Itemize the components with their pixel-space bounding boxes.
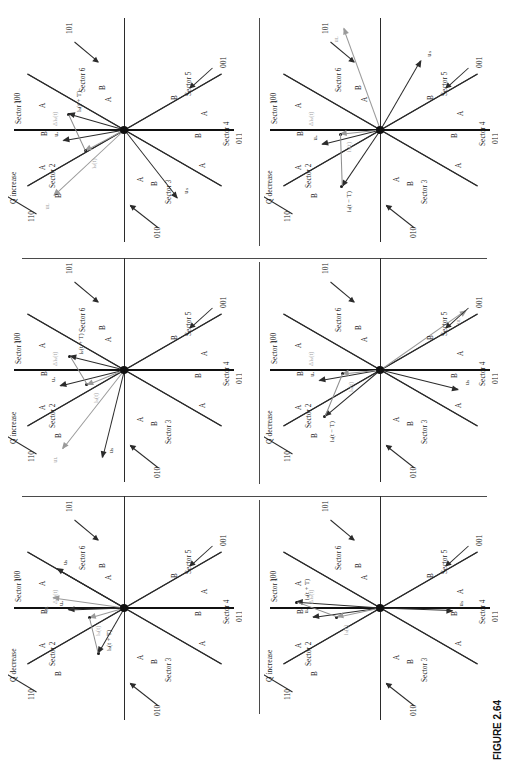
code-leader-line	[130, 684, 159, 707]
region-label-b: B	[428, 95, 435, 100]
sector-boundary-ray	[124, 18, 125, 130]
region-label-a: A	[456, 163, 463, 168]
ripple-connector	[325, 374, 343, 417]
region-label-a: A	[394, 177, 401, 182]
region-label-b: B	[196, 133, 203, 138]
vector-us	[380, 60, 421, 130]
vector-label-uL: uʟ	[52, 457, 58, 463]
leader-arrowhead	[348, 297, 356, 305]
sector-code-100: 100	[270, 93, 277, 104]
region-label-a: A	[40, 405, 47, 410]
region-label-b: B	[428, 573, 435, 578]
region-label-a: A	[296, 405, 303, 410]
region-label-b: B	[408, 421, 415, 426]
sector-label-6: Sector 6	[336, 67, 343, 92]
region-label-a: A	[138, 655, 145, 660]
region-label-a: A	[296, 103, 303, 108]
sector-boundary-ray	[124, 608, 125, 720]
code-leader-line	[130, 446, 159, 469]
region-label-b: B	[152, 659, 159, 664]
panel-rotated-canvas: uʟuₐiₛ(t)iₛ(t − T)uₛΔiₛ(t)Sector 1Sector…	[264, 14, 496, 246]
sector-code-100: 100	[14, 93, 21, 104]
sector-boundary-ray	[124, 258, 125, 370]
ripple-connector	[68, 114, 86, 151]
vector-label-ua: uₐ	[50, 377, 56, 382]
sector-boundary-ray	[380, 370, 381, 482]
code-leader-line	[386, 206, 415, 229]
vector-label-ua: uₐ	[53, 132, 59, 137]
code-leader-line	[74, 42, 99, 63]
sector-code-011: 011	[236, 133, 242, 144]
region-label-b: B	[408, 659, 415, 664]
leader-arrowhead	[92, 535, 100, 543]
sector-label-6: Sector 6	[80, 545, 87, 570]
hexagon-diagram: uʟuₐiₛ(t)iₛ(t − T)uₛΔiₛ(t)Sector 1Sector…	[264, 254, 496, 486]
sector-label-3: Sector 3	[422, 419, 429, 444]
hexagon-diagram: uʟuₐiₛ(t)iₛ(t + T)uₛΔiₛ(t)Sector 1Sector…	[8, 492, 240, 724]
vector-label-us: uₛ	[108, 448, 114, 453]
region-label-a: A	[138, 177, 145, 182]
sector-code-001: 001	[476, 535, 483, 546]
region-label-b: B	[312, 433, 319, 438]
vector-uL	[343, 28, 381, 130]
panel-rotated-canvas: uʟuₐiₛ(t)iₛ(t + T)uₛΔiₛ(t)Sector 1Sector…	[8, 254, 240, 486]
sector-code-011: 011	[236, 373, 242, 384]
region-label-a: A	[106, 337, 113, 342]
panel-title-line2: Q increase	[10, 412, 17, 444]
sector-boundary-ray	[124, 370, 125, 482]
region-label-b: B	[408, 181, 415, 186]
sector-code-101: 101	[66, 23, 73, 34]
origin-hub	[120, 604, 128, 612]
region-label-b: B	[152, 181, 159, 186]
sector-boundary-ray	[380, 552, 477, 609]
sector-boundary-ray	[124, 552, 221, 609]
panel-title-line2: Q increase	[10, 172, 17, 204]
sector-code-001: 001	[476, 57, 483, 68]
hexagon-diagram: uʟuₐiₛ(t)iₛ(t + T)uₛΔiₛ(t)Sector 1Sector…	[8, 254, 240, 486]
panel-bottom-right: uₐiₛ(t)iₛ(t + T)uₛΔiₛ(t)Sector 1Sector 2…	[264, 492, 498, 726]
sector-code-101: 101	[66, 501, 73, 512]
panel-middle-right: uʟuₐiₛ(t)iₛ(t − T)uₛΔiₛ(t)Sector 1Sector…	[264, 254, 498, 488]
vector-label-delta-is: Δiₛ(t)	[308, 351, 314, 366]
region-label-b: B	[56, 433, 63, 438]
region-label-b: B	[172, 573, 179, 578]
region-label-a: A	[40, 165, 47, 170]
region-label-b: B	[452, 611, 459, 616]
vector-label-ua: uₐ	[312, 135, 318, 140]
leader-arrowhead	[128, 443, 136, 451]
vector-label-us: uₛ	[62, 560, 68, 565]
leader-arrowhead	[384, 443, 392, 451]
sector-label-4: Sector 4	[224, 361, 231, 386]
region-label-b: B	[312, 671, 319, 676]
vector-label-ua: uₐ	[309, 372, 315, 377]
region-label-a: A	[200, 163, 207, 168]
vector-label-delta-is: Δiₛ(t)	[308, 589, 314, 604]
vector-arrowhead	[318, 377, 326, 384]
sector-label-3: Sector 3	[422, 179, 429, 204]
region-label-b: B	[452, 373, 459, 378]
sector-label-3: Sector 3	[166, 419, 173, 444]
leader-arrowhead	[92, 297, 100, 305]
sector-boundary-ray	[283, 608, 380, 665]
panel-rotated-canvas: uʟuₐiₛ(t)iₛ(t + T)uₛΔiₛ(t)Sector 1Sector…	[8, 492, 240, 724]
vertical-divider-middle	[259, 262, 260, 484]
region-label-a: A	[200, 403, 207, 408]
region-label-b: B	[42, 371, 49, 376]
code-leader-line	[74, 520, 99, 541]
region-label-a: A	[106, 97, 113, 102]
vector-label-is-t: iₛ(t)	[346, 142, 352, 152]
vector-arrowhead	[60, 442, 69, 451]
vector-label-is-t: iₛ(t)	[95, 626, 101, 636]
region-label-a: A	[394, 655, 401, 660]
region-label-a: A	[296, 643, 303, 648]
origin-hub	[120, 366, 128, 374]
sector-label-6: Sector 6	[80, 307, 87, 332]
origin-hub	[376, 126, 384, 134]
region-label-a: A	[458, 351, 465, 356]
vector-label-is-t-minus-T: iₛ(t − T)	[329, 421, 335, 442]
vertical-divider-top	[259, 18, 260, 246]
hexagon-diagram: uʟuₐiₛ(t)iₛ(t − T)uₛΔiₛ(t)Sector 1Sector…	[264, 14, 496, 246]
sector-boundary-ray	[283, 130, 380, 187]
vector-label-is-t: iₛ(t)	[91, 158, 97, 168]
sector-label-6: Sector 6	[80, 67, 87, 92]
